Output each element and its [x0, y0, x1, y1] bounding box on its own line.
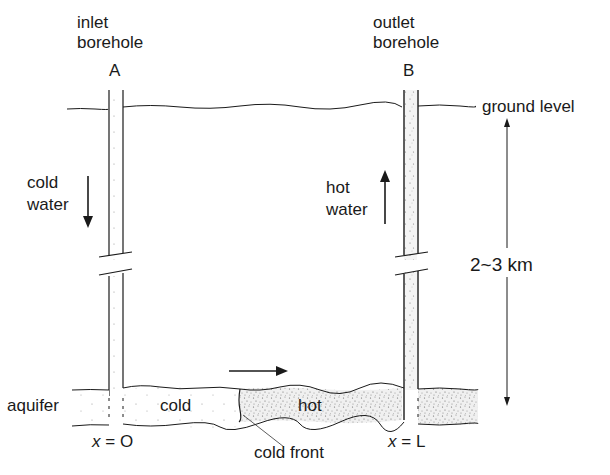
x0-variable: x [92, 432, 101, 451]
inlet-label-line2: borehole [77, 33, 143, 53]
inlet-borehole-shaft [99, 90, 132, 400]
outlet-label-line2: borehole [373, 33, 439, 53]
hot-water-label-line2: water [326, 200, 368, 220]
outlet-label-line1: outlet [373, 13, 415, 33]
cold-region-label: cold [160, 396, 191, 416]
outlet-borehole-shaft [395, 90, 428, 420]
x-equals-zero-label: x = O [92, 432, 133, 452]
xl-variable: x [388, 432, 397, 451]
hot-water-label-line1: hot [326, 178, 350, 198]
x0-value: O [120, 432, 133, 451]
flow-direction-arrow [229, 366, 288, 376]
cold-front-label: cold front [254, 443, 324, 463]
depth-label: 2~3 km [470, 255, 533, 275]
hot-region-label: hot [298, 396, 322, 416]
aquifer-label: aquifer [7, 396, 59, 416]
xl-equals: = [401, 432, 411, 451]
inlet-label-line1: inlet [77, 13, 108, 33]
aquifer-layer [72, 383, 478, 432]
cold-water-down-arrow [83, 176, 93, 228]
xl-value: L [416, 432, 425, 451]
cold-water-label-line2: water [27, 195, 69, 215]
hot-water-up-arrow [380, 170, 390, 224]
cold-water-label-line1: cold [27, 173, 58, 193]
ground-level-label: ground level [482, 97, 575, 117]
borehole-a-letter: A [109, 61, 120, 81]
x-equals-l-label: x = L [388, 432, 425, 452]
borehole-b-letter: B [403, 61, 414, 81]
x0-equals: = [105, 432, 115, 451]
